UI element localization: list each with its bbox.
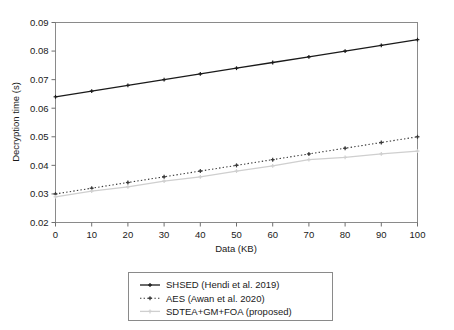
x-axis-title: Data (KB) <box>215 243 257 254</box>
x-tick-label: 0 <box>53 229 58 240</box>
x-tick-label: 50 <box>231 229 242 240</box>
x-tick-label: 30 <box>159 229 170 240</box>
y-tick-label: 0.09 <box>30 17 49 28</box>
x-tick-label: 60 <box>267 229 278 240</box>
y-tick-label: 0.04 <box>30 160 49 171</box>
y-tick-label: 0.03 <box>30 188 49 199</box>
x-tick-label: 90 <box>376 229 387 240</box>
y-tick-label: 0.02 <box>30 217 49 228</box>
legend-entry-label: AES (Awan et al. 2020) <box>166 293 265 304</box>
y-axis-title: Decryption time (s) <box>10 82 21 162</box>
x-tick-label: 10 <box>86 229 97 240</box>
y-tick-label: 0.05 <box>30 131 49 142</box>
chart-legend: SHSED (Hendi et al. 2019)AES (Awan et al… <box>129 273 333 321</box>
y-tick-label: 0.06 <box>30 103 49 114</box>
legend-entry-label: SHSED (Hendi et al. 2019) <box>166 279 280 290</box>
x-tick-label: 100 <box>410 229 426 240</box>
y-tick-label: 0.07 <box>30 74 49 85</box>
decryption-time-chart: 0.020.030.040.050.060.070.080.09 0102030… <box>0 0 454 330</box>
x-tick-label: 40 <box>195 229 206 240</box>
legend-entry-label: SDTEA+GM+FOA (proposed) <box>166 306 292 317</box>
x-tick-label: 80 <box>340 229 351 240</box>
y-tick-label: 0.08 <box>30 45 49 56</box>
x-tick-label: 70 <box>304 229 315 240</box>
x-tick-label: 20 <box>123 229 134 240</box>
